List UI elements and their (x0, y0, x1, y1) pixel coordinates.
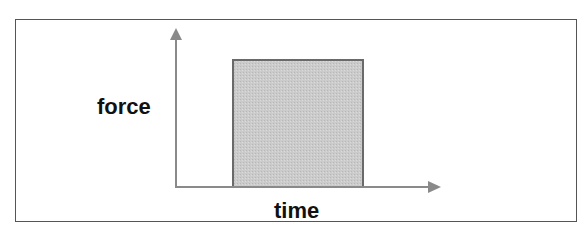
y-axis (170, 28, 182, 187)
x-axis-arrow-icon (428, 181, 441, 193)
y-axis-label: force (97, 96, 151, 118)
y-axis-arrow-icon (170, 28, 182, 40)
x-axis-label: time (274, 200, 319, 222)
impulse-rectangle (233, 60, 363, 187)
